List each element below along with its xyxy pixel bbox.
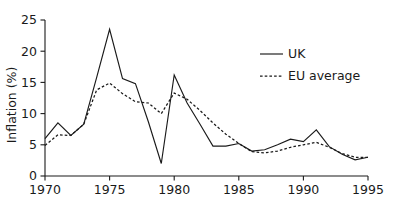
legend-label-uk: UK — [288, 46, 306, 61]
x-tick-marks — [45, 176, 368, 181]
x-tick-label: 1995 — [352, 182, 384, 197]
x-tick-label: 1980 — [158, 182, 190, 197]
inflation-line-chart: Inflation (%) 0510152025 197019751980198… — [0, 0, 393, 208]
y-tick-label: 15 — [21, 75, 37, 90]
chart-canvas: Inflation (%) 0510152025 197019751980198… — [0, 0, 393, 208]
x-tick-label: 1970 — [29, 182, 61, 197]
series-line-eu-average — [45, 83, 368, 157]
chart-legend: UK EU average — [260, 46, 361, 83]
y-tick-label-group: 0510152025 — [21, 12, 37, 183]
x-tick-label-group: 197019751980198519901995 — [29, 182, 384, 197]
y-tick-label: 25 — [21, 12, 37, 27]
y-tick-label: 5 — [29, 137, 37, 152]
legend-label-eu-average: EU average — [288, 68, 361, 83]
series-line-uk — [45, 29, 368, 163]
x-tick-label: 1975 — [94, 182, 126, 197]
y-tick-label: 10 — [21, 106, 37, 121]
x-tick-label: 1990 — [287, 182, 319, 197]
y-tick-marks — [41, 20, 46, 176]
y-axis-title: Inflation (%) — [4, 67, 19, 144]
y-tick-label: 20 — [21, 44, 37, 59]
x-tick-label: 1985 — [223, 182, 255, 197]
